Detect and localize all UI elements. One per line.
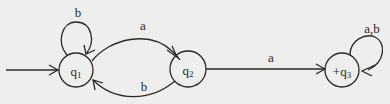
edge-q3-q3 [350, 36, 383, 76]
label-q1-q1: b [75, 6, 82, 19]
state-q1: q1 [71, 65, 82, 80]
label-q3-q3: a,b [364, 22, 380, 35]
edge-q2-q3 [206, 64, 325, 74]
state-q3-sub: 3 [347, 70, 352, 80]
edge-q2-q1 [93, 80, 175, 97]
label-q2-q1: b [141, 80, 148, 93]
state-q2: q2 [183, 64, 194, 79]
state-q3: +q3 [333, 65, 351, 80]
label-q1-q2: a [140, 19, 146, 32]
edge-q1-q2 [92, 39, 180, 61]
label-q2-q3: a [268, 51, 274, 64]
state-q1-sub: 1 [77, 70, 82, 80]
start-arrow [6, 65, 58, 75]
state-q2-sub: 2 [189, 69, 194, 79]
automaton-diagram: q1 q2 +q3 b a b a a,b [0, 0, 390, 104]
edge-q1-q1 [61, 22, 95, 55]
diagram-edges [0, 0, 390, 104]
